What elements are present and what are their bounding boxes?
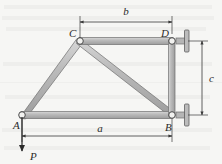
member-AB	[21, 112, 173, 119]
dimension-label-b: b	[123, 5, 129, 17]
truss-diagram-figure: b a c P A B C D	[0, 0, 222, 164]
joint-label-B: B	[165, 121, 172, 133]
dimension-label-c: c	[209, 72, 214, 84]
force-label-P: P	[29, 150, 37, 162]
joint-label-D: D	[160, 27, 169, 39]
pin-joint-C	[77, 38, 84, 45]
member-DB	[169, 40, 176, 116]
scan-artifacts	[0, 0, 222, 164]
member-CD	[79, 38, 173, 45]
joint-label-A: A	[12, 119, 20, 131]
dimension-label-a: a	[97, 122, 103, 134]
truss-diagram-canvas: b a c P A B C D	[0, 0, 222, 164]
joint-label-C: C	[69, 27, 77, 39]
